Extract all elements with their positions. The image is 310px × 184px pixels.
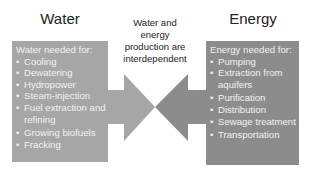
bullet-icon: • — [16, 67, 19, 79]
water-needs-box: Water needed for: •Cooling •Dewatering •… — [12, 41, 108, 162]
energy-needs-list: •Pumping •Extraction from aquifers •Puri… — [210, 56, 297, 141]
list-item: •Growing biofuels — [16, 127, 106, 139]
interdependence-caption: Water and energy production are interdep… — [112, 17, 198, 65]
caption-line: energy — [112, 29, 198, 41]
list-item-label: Transportation — [218, 129, 280, 140]
list-item: •Steam-injection — [16, 90, 106, 102]
bullet-icon: • — [210, 56, 213, 68]
bullet-icon: • — [210, 129, 213, 141]
list-item: •Sewage treatment — [210, 116, 297, 128]
bullet-icon: • — [16, 139, 19, 151]
caption-line: Water and — [112, 17, 198, 29]
bullet-icon: • — [16, 79, 19, 91]
water-to-energy-arrow — [108, 74, 155, 141]
list-item: •Fuel extraction and refining — [16, 102, 106, 125]
list-item: •Cooling — [16, 56, 106, 68]
bullet-icon: • — [16, 90, 19, 102]
list-item-label: Cooling — [24, 56, 57, 67]
list-item: •Transportation — [210, 129, 297, 141]
water-needs-heading: Water needed for: — [16, 44, 106, 56]
energy-to-water-arrow — [155, 74, 206, 141]
bullet-icon: • — [16, 56, 19, 68]
list-item-label: Extraction from aquifers — [218, 67, 283, 90]
caption-line: interdependent — [112, 53, 198, 65]
list-item: •Purification — [210, 92, 297, 104]
list-item-label: Sewage treatment — [218, 116, 296, 127]
energy-title: Energy — [206, 10, 300, 27]
bullet-icon: • — [210, 104, 213, 116]
list-item: •Dewatering — [16, 67, 106, 79]
caption-line: production are — [112, 41, 198, 53]
list-item-label: Fuel extraction and refining — [24, 102, 106, 125]
energy-needs-box: Energy needed for: •Pumping •Extraction … — [206, 41, 299, 165]
list-item: •Fracking — [16, 139, 106, 151]
list-item: •Distribution — [210, 104, 297, 116]
list-item-label: Dewatering — [24, 67, 73, 78]
energy-needs-heading: Energy needed for: — [210, 44, 297, 56]
list-item-label: Purification — [218, 92, 265, 103]
bullet-icon: • — [210, 67, 213, 79]
list-item: •Pumping — [210, 56, 297, 68]
list-item-label: Pumping — [218, 56, 256, 67]
list-item: •Hydropower — [16, 79, 106, 91]
bullet-icon: • — [210, 116, 213, 128]
water-needs-list: •Cooling •Dewatering •Hydropower •Steam-… — [16, 56, 106, 151]
list-item-label: Fracking — [24, 139, 61, 150]
list-item: •Extraction from aquifers — [210, 67, 297, 90]
list-item-label: Distribution — [218, 104, 266, 115]
water-title: Water — [12, 10, 108, 27]
list-item-label: Steam-injection — [24, 90, 90, 101]
list-item-label: Growing biofuels — [24, 127, 95, 138]
list-item-label: Hydropower — [24, 79, 76, 90]
bullet-icon: • — [16, 127, 19, 139]
bullet-icon: • — [210, 92, 213, 104]
bullet-icon: • — [16, 102, 19, 114]
